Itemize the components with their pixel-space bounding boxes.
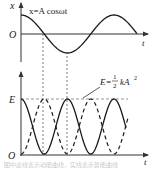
energy-plot: E O t E= 1 2 kA 2: [8, 72, 148, 167]
formula-numerator: 1: [113, 73, 117, 81]
formula-lhs: E=: [99, 77, 112, 87]
figure-caption: 图中虚线表示动能曲线，实线表示势能曲线: [4, 160, 152, 168]
top-t-label: t: [142, 38, 145, 48]
displacement-plot: x O t x=A cosωt: [9, 0, 148, 62]
energy-formula: E= 1 2 kA 2: [99, 73, 137, 90]
formula-exponent: 2: [134, 75, 137, 81]
top-formula: x=A cosωt: [29, 6, 68, 16]
chart-figure: x O t x=A cosωt E O t E= 1 2 kA 2: [0, 0, 156, 169]
formula-rhs: kA: [120, 77, 130, 87]
formula-pointer: [83, 87, 100, 98]
formula-denominator: 2: [113, 82, 117, 90]
top-y-label: x: [9, 0, 15, 11]
top-origin-label: O: [9, 29, 16, 40]
bottom-y-label: E: [8, 94, 15, 105]
kinetic-energy-curve: [21, 99, 128, 154]
